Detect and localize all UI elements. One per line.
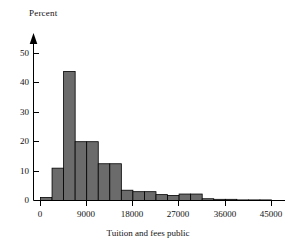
x-axis [34, 201, 286, 207]
histogram-bar [179, 194, 191, 200]
y-axis [30, 33, 39, 201]
bars-group [41, 71, 272, 200]
histogram-bar [98, 164, 110, 201]
histogram-bar [121, 190, 133, 200]
histogram-bar [156, 195, 168, 201]
histogram-bar [133, 192, 145, 201]
histogram-figure: Percent 50 40 30 20 10 0 0 9000 18000 27… [0, 0, 296, 250]
histogram-bar [75, 142, 87, 201]
histogram-bar [64, 71, 76, 200]
histogram-bar [168, 196, 180, 201]
y-axis-arrowhead [30, 33, 38, 44]
histogram-bar [144, 192, 156, 201]
histogram-bar [110, 164, 122, 201]
histogram-bar [87, 142, 99, 201]
plot-area [0, 0, 296, 250]
histogram-bar [191, 194, 203, 200]
histogram-bar [52, 168, 64, 200]
